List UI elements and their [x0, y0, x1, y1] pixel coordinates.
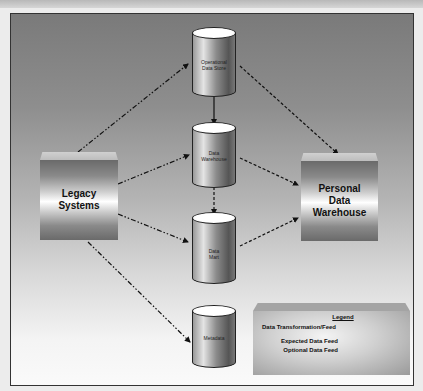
edge-legacy-dw	[118, 155, 189, 184]
node-label: Legacy Systems	[58, 188, 99, 212]
node-personal-data-warehouse: Personal Data Warehouse	[301, 153, 378, 241]
legend-bevel	[253, 303, 410, 311]
node-label: Metadata	[192, 335, 236, 341]
node-label: Operational Data Store	[192, 59, 236, 71]
node-data-mart: Data Mart	[192, 212, 236, 284]
edge-legacy-meta	[88, 242, 190, 342]
edge-ods-pdw	[240, 66, 338, 154]
legend: Legend Data Transformation/Feed Expected…	[253, 303, 410, 375]
node-label: Data Mart	[192, 248, 236, 260]
edge-dm-pdw	[240, 218, 298, 246]
node-legacy-systems: Legacy Systems	[40, 152, 118, 240]
edge-legacy-dm	[118, 214, 188, 242]
node-label: Personal Data Warehouse	[313, 183, 367, 219]
legend-item-optional: Optional Data Feed	[283, 347, 338, 353]
node-data-warehouse: Data Warehouse	[192, 122, 236, 188]
box-face: Personal Data Warehouse	[301, 161, 378, 241]
edge-dw-pdw	[240, 158, 298, 185]
legend-item-transformation: Data Transformation/Feed	[262, 324, 336, 330]
node-operational-data-store: Operational Data Store	[192, 27, 236, 97]
legend-title: Legend	[313, 314, 373, 320]
node-label: Data Warehouse	[192, 150, 236, 162]
box-bevel	[40, 152, 118, 160]
node-metadata: Metadata	[192, 305, 236, 368]
edge-legacy-ods	[78, 64, 188, 152]
box-face: Legacy Systems	[40, 160, 118, 240]
legend-item-expected: Expected Data Feed	[281, 338, 338, 344]
box-bevel	[301, 153, 378, 161]
